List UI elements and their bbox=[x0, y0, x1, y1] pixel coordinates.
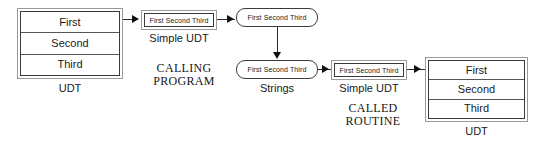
section-label-called-routine-line1: CALLED bbox=[331, 102, 415, 115]
simple-udt-out-caption: Simple UDT bbox=[141, 33, 217, 44]
arrow-head-string-to-simple bbox=[322, 65, 329, 73]
udt-source-row-first: First bbox=[21, 12, 119, 33]
section-label-calling-program-line1: CALLING bbox=[140, 62, 228, 75]
arrow-head-simple-to-udt bbox=[414, 65, 421, 73]
udt-target-row-first: First bbox=[429, 61, 524, 80]
simple-udt-out-inner: First Second Third bbox=[144, 13, 214, 27]
section-label-called-routine: CALLED ROUTINE bbox=[331, 102, 415, 128]
udt-source-row-second: Second bbox=[21, 33, 119, 54]
string-bottom-box: First Second Third bbox=[236, 60, 318, 79]
udt-source-box: First Second Third bbox=[17, 8, 123, 79]
udt-target-row-third: Third bbox=[429, 100, 524, 118]
diagram-canvas: First Second Third UDT First Second Thir… bbox=[0, 0, 541, 146]
section-label-called-routine-line2: ROUTINE bbox=[331, 115, 415, 128]
simple-udt-in-text: First Second Third bbox=[340, 67, 399, 74]
string-top-box: First Second Third bbox=[236, 8, 318, 27]
udt-target-inner: First Second Third bbox=[428, 60, 525, 119]
arrow-head-string-top-to-bottom bbox=[273, 52, 281, 59]
section-label-calling-program-line2: PROGRAM bbox=[140, 75, 228, 88]
udt-source-inner: First Second Third bbox=[20, 11, 120, 76]
simple-udt-in-caption: Simple UDT bbox=[331, 83, 407, 94]
string-top-text: First Second Third bbox=[248, 14, 307, 21]
simple-udt-in-box: First Second Third bbox=[331, 60, 407, 80]
arrow-head-simple-to-string bbox=[227, 15, 234, 23]
string-bottom-caption: Strings bbox=[236, 83, 318, 94]
udt-source-caption: UDT bbox=[17, 83, 123, 94]
string-bottom-text: First Second Third bbox=[248, 66, 307, 73]
udt-target-caption: UDT bbox=[425, 126, 528, 137]
arrow-head-udt-to-simple bbox=[132, 15, 139, 23]
simple-udt-out-box: First Second Third bbox=[141, 10, 217, 30]
udt-source-row-third: Third bbox=[21, 55, 119, 75]
simple-udt-in-inner: First Second Third bbox=[334, 63, 404, 77]
udt-target-row-second: Second bbox=[429, 80, 524, 99]
simple-udt-out-text: First Second Third bbox=[150, 17, 209, 24]
udt-target-box: First Second Third bbox=[425, 57, 528, 122]
section-label-calling-program: CALLING PROGRAM bbox=[140, 62, 228, 88]
